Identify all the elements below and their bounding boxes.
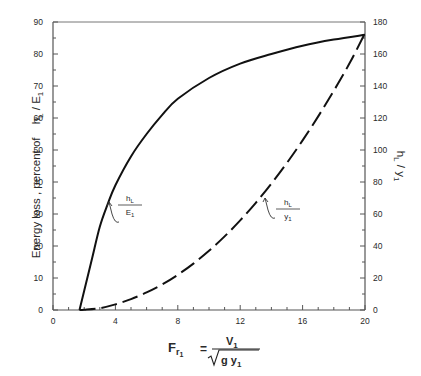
- label-denominator: y1: [284, 212, 292, 222]
- leader-arrow-icon: [265, 198, 275, 218]
- leader-arrow-icon: [109, 202, 119, 222]
- x-axis-title: Fr1 = V1 g y1: [168, 335, 260, 369]
- x-tick-label: 0: [51, 316, 56, 326]
- x-tick-label: 20: [360, 316, 370, 326]
- y-right-tick-label: 60: [373, 209, 383, 219]
- y-left-tick-label: 0: [38, 305, 43, 315]
- x-tick-label: 8: [175, 316, 180, 326]
- y-right-tick-label: 180: [373, 17, 387, 27]
- y-right-tick-label: 0: [373, 305, 378, 315]
- curve-labels: hLE1hLy1: [107, 194, 300, 222]
- label-numerator: hL: [126, 194, 134, 204]
- label-hL-over-y1: hLy1: [263, 198, 300, 222]
- x-tick-label: 16: [298, 316, 308, 326]
- label-denominator: E1: [126, 208, 135, 218]
- y-right-tick-label: 40: [373, 241, 383, 251]
- y-left-tick-label: 80: [34, 49, 44, 59]
- y-right-tick-label: 120: [373, 113, 387, 123]
- plot-frame: [53, 22, 365, 310]
- svg-text:Fr1: Fr1: [168, 340, 183, 358]
- y-axis-left-title: Energy loss , percent of hL / E1: [30, 91, 45, 258]
- curve-hL-over-E1: [80, 35, 366, 310]
- svg-text:g y1: g y1: [221, 354, 242, 369]
- energy-loss-chart: 0481216200102030405060708090020406080100…: [0, 0, 421, 376]
- y-left-tick-label: 70: [34, 81, 44, 91]
- y-left-tick-label: 90: [34, 17, 44, 27]
- label-hL-over-E1: hLE1: [107, 194, 142, 222]
- y-right-tick-label: 80: [373, 177, 383, 187]
- x-tick-label: 12: [235, 316, 245, 326]
- svg-text:=: =: [200, 342, 207, 356]
- y-right-tick-label: 140: [373, 81, 387, 91]
- curves: [80, 33, 366, 310]
- y-right-tick-label: 100: [373, 145, 387, 155]
- y-axis-right-title: hL / y1: [392, 151, 407, 182]
- svg-text:hL / y1: hL / y1: [392, 151, 407, 182]
- x-tick-label: 4: [113, 316, 118, 326]
- y-left-tick-label: 10: [34, 273, 44, 283]
- svg-text:Energy loss , percent of: Energy loss , percent of hL / E1: [30, 91, 45, 258]
- svg-text:V1: V1: [226, 335, 238, 350]
- y-right-tick-label: 20: [373, 273, 383, 283]
- y-right-tick-label: 160: [373, 49, 387, 59]
- label-numerator: hL: [284, 198, 292, 208]
- y-left-title-text: Energy loss , percent of: [30, 137, 42, 259]
